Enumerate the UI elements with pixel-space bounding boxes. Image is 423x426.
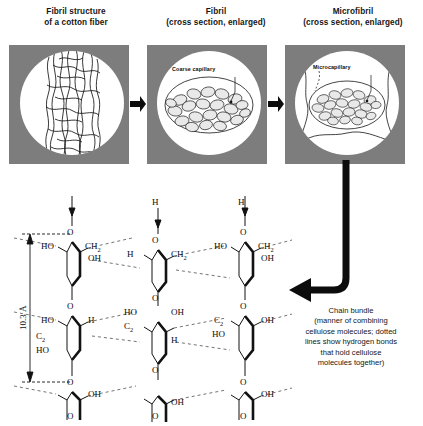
atom-label: OH (88, 254, 101, 263)
atom-label: OH (88, 390, 101, 399)
atom-label: OH (261, 316, 274, 325)
atom-label: O (240, 412, 247, 421)
panel-title-line1: Fibril (206, 7, 227, 16)
atom-label: O (240, 302, 247, 311)
atom-label: HO (124, 308, 137, 317)
atom-label: C2 (214, 316, 223, 328)
figure-canvas: Fibril structure of a cotton fiber Fibri… (0, 0, 423, 426)
cellulose-bond-skeleton (0, 190, 300, 426)
atom-label: HO (41, 242, 54, 251)
atom-label: HO (36, 346, 49, 355)
atom-label: HO (41, 316, 54, 325)
atom-label: H (152, 198, 159, 207)
atom-label: O (152, 366, 159, 375)
atom-label: C2 (124, 322, 133, 334)
dimension-label-10-3-angstrom: 10.3 Å (18, 306, 28, 331)
panel-title-microfibril: Microfibril (cross section, enlarged) (283, 6, 423, 28)
atom-label: O (67, 228, 74, 237)
atom-label: O (67, 302, 74, 311)
panel-title-line1: Microfibril (333, 7, 374, 16)
atom-label: OH (261, 254, 274, 263)
atom-label: OH (171, 308, 184, 317)
caption-line: lines show hydrogen bonds (281, 337, 421, 347)
panel-title-line2: of a cotton fiber (44, 18, 108, 27)
atom-label: O (240, 228, 247, 237)
atom-label: O (152, 236, 159, 245)
microfibril-cross-section-drawing (285, 45, 405, 164)
inner-label-microcapillary: Microcapillary (313, 64, 351, 70)
atom-label: O (152, 412, 159, 421)
fibril-strands-drawing (9, 45, 129, 164)
cellulose-chain-bundle-structure: O HO CH2 OH O HO H O C2 HO OH O H O H CH… (0, 190, 300, 426)
atom-label: O (240, 378, 247, 387)
atom-label: O (67, 378, 74, 387)
panel-microfibril-cross-section: Microcapillary (285, 45, 405, 164)
atom-label: HO (212, 330, 225, 339)
panel-fibril-structure (9, 45, 129, 164)
atom-label: H (238, 198, 245, 207)
caption-line: molecules together) (281, 358, 421, 368)
atom-label: H (88, 316, 95, 325)
atom-label: H (171, 336, 178, 345)
inner-label-coarse-capillary: Coarse capillary (172, 66, 215, 72)
atom-label: C2 (36, 332, 45, 344)
panel-title-fibril-structure: Fibril structure of a cotton fiber (6, 6, 146, 28)
panel-title-line1: Fibril structure (46, 7, 105, 16)
fibril-cross-section-drawing (147, 45, 267, 164)
caption-line: cellulose molecules; dotted (281, 327, 421, 337)
panel-title-fibril: Fibril (cross section, enlarged) (146, 6, 286, 28)
atom-label: CH2 (171, 250, 187, 262)
caption-line: (manner of combining (281, 316, 421, 326)
arrow-fibril-to-cross-section (129, 92, 147, 116)
caption-line: that hold cellulose (281, 348, 421, 358)
atom-label: OH (171, 398, 184, 407)
caption-line: Chain bundle (281, 306, 421, 316)
panel-fibril-cross-section: Coarse capillary (147, 45, 267, 164)
atom-label: H (127, 250, 134, 259)
arrow-cross-section-to-microfibril (267, 92, 285, 116)
panel-title-line2: (cross section, enlarged) (303, 18, 402, 27)
atom-label: OH (261, 390, 274, 399)
panel-title-line2: (cross section, enlarged) (166, 18, 265, 27)
atom-label: O (67, 412, 74, 421)
atom-label: O (152, 294, 159, 303)
atom-label: HO (214, 242, 227, 251)
chain-bundle-caption: Chain bundle (manner of combining cellul… (281, 306, 421, 368)
